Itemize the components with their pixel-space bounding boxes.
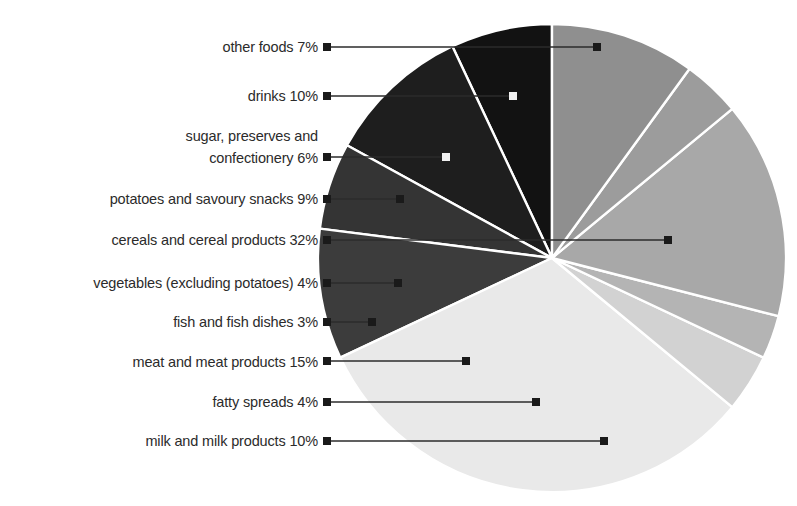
callout-label-marker	[323, 437, 331, 445]
pie-chart-svg: other foods 7%drinks 10%sugar, preserves…	[0, 0, 797, 506]
callout-label-marker	[323, 357, 331, 365]
callout-label-marker	[323, 318, 331, 326]
callout-slice-marker	[396, 195, 404, 203]
callout-label: vegetables (excluding potatoes) 4%	[93, 275, 318, 291]
callout-labels-group: other foods 7%drinks 10%sugar, preserves…	[93, 39, 318, 449]
callout-label: drinks 10%	[248, 88, 318, 104]
callout-label-marker	[323, 92, 331, 100]
callout-slice-marker	[462, 357, 470, 365]
callout-label: potatoes and savoury snacks 9%	[110, 191, 319, 207]
callout-slice-marker	[664, 236, 672, 244]
callout-label: confectionery 6%	[209, 150, 318, 166]
callout-slice-marker	[600, 437, 608, 445]
callout-slice-marker	[509, 92, 517, 100]
callout-label-marker	[323, 279, 331, 287]
callout-slice-marker	[593, 43, 601, 51]
callout-label: meat and meat products 15%	[132, 354, 318, 370]
callout-slice-marker	[394, 279, 402, 287]
callout-label: fatty spreads 4%	[212, 394, 318, 410]
callout-label: sugar, preserves and	[186, 128, 318, 144]
callout-label: fish and fish dishes 3%	[173, 314, 318, 330]
callout-label-marker	[323, 236, 331, 244]
callout-label-marker	[323, 43, 331, 51]
callout-label-marker	[323, 153, 331, 161]
callout-label: milk and milk products 10%	[145, 433, 318, 449]
pie-chart-figure: other foods 7%drinks 10%sugar, preserves…	[0, 0, 797, 506]
pie-slices-group	[318, 24, 786, 492]
callout-slice-marker	[532, 398, 540, 406]
callout-slice-marker	[368, 318, 376, 326]
callout-label-marker	[323, 195, 331, 203]
callout-slice-marker	[442, 153, 450, 161]
callout-label: other foods 7%	[223, 39, 319, 55]
callout-label: cereals and cereal products 32%	[111, 232, 318, 248]
callout-label-marker	[323, 398, 331, 406]
